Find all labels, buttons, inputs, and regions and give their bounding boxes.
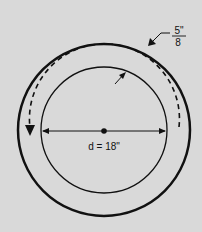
thickness-numerator: 5" <box>174 25 184 36</box>
center-point <box>101 128 107 134</box>
left-arrowhead-icon <box>42 128 49 134</box>
thickness-pointer <box>151 33 170 43</box>
diameter-label: d = 18" <box>88 141 120 152</box>
arc-arrowhead-icon <box>25 125 35 136</box>
right-arrowhead-icon <box>159 128 166 134</box>
dashed-arc-arrow <box>29 44 179 128</box>
thickness-denominator: 8 <box>175 37 181 48</box>
ring-diagram: d = 18" 5" 8 <box>0 0 202 232</box>
